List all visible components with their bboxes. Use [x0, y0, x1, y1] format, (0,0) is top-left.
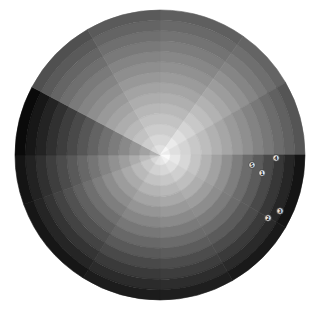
radial-chart: 12345	[0, 0, 319, 309]
marker-label: 5	[250, 162, 254, 168]
marker-label: 3	[278, 208, 282, 214]
marker-label: 4	[274, 155, 278, 161]
chart-sectors	[15, 10, 305, 300]
marker-label: 1	[260, 170, 264, 176]
marker-label: 2	[266, 215, 270, 221]
